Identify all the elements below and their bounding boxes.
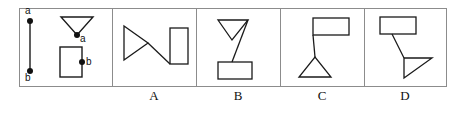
option-d-rectangle — [380, 17, 416, 34]
option-d-connector — [392, 34, 404, 58]
option-b-shapes[interactable] — [218, 20, 252, 79]
option-label-d[interactable]: D — [385, 88, 425, 104]
reference-rectangle — [60, 47, 82, 77]
option-c-shapes[interactable] — [299, 18, 349, 77]
reference-point-a-dot — [27, 18, 33, 24]
option-label-c[interactable]: C — [302, 88, 342, 104]
option-a-connector — [148, 43, 170, 64]
reference-rectangle-label-b: b — [86, 56, 92, 67]
option-label-b[interactable]: B — [218, 88, 258, 104]
option-label-a[interactable]: A — [134, 88, 174, 104]
reference-triangle-label-a: a — [80, 33, 86, 44]
reference-label-b-bottom: b — [25, 72, 31, 83]
option-b-connector — [232, 20, 248, 62]
option-c-connector — [313, 35, 315, 57]
figure-container: a b a b A B C D — [0, 0, 465, 114]
option-a-triangle — [124, 26, 148, 60]
option-c-rectangle — [313, 18, 349, 35]
option-d-shapes[interactable] — [380, 17, 432, 78]
reference-label-a-top: a — [25, 5, 31, 16]
option-a-shapes[interactable] — [124, 26, 188, 64]
reference-panel — [27, 17, 93, 77]
option-a-rectangle — [170, 28, 188, 64]
option-c-triangle — [299, 57, 331, 77]
option-b-rectangle — [218, 62, 252, 79]
option-d-triangle — [404, 58, 432, 78]
reference-rectangle-point-b-dot — [79, 59, 85, 65]
